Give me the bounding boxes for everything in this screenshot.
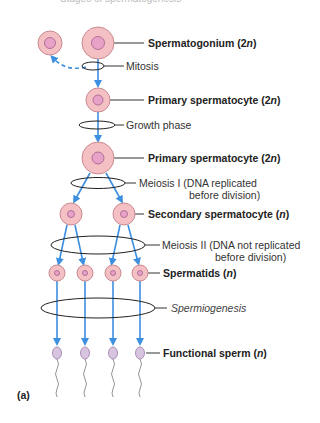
label-spermatogonium: Spermatogonium (2n) — [148, 37, 257, 49]
sperm-4 — [136, 347, 145, 397]
spermatid-cell-4 — [132, 265, 148, 281]
label-secondary-spermatocyte: Secondary spermatocyte (n) — [148, 208, 289, 220]
label-spermiogenesis: Spermiogenesis — [171, 302, 246, 314]
spermatid-cell-1 — [49, 265, 65, 281]
label-primary-spermatocyte-1: Primary spermatocyte (2n) — [148, 94, 280, 106]
spermatid-cell-2 — [77, 265, 93, 281]
primary-spermatocyte-cell-2 — [82, 142, 114, 174]
label-meiosis-2-line1: Meiosis II (DNA not replicated — [162, 239, 300, 251]
label-meiosis-1-line2: before division) — [189, 189, 260, 201]
spermatid-cell-3 — [105, 265, 121, 281]
label-meiosis-1-line1: Meiosis I (DNA replicated — [139, 177, 257, 189]
functional-sperm — [53, 347, 145, 397]
primary-spermatocyte-cell-1 — [86, 88, 110, 112]
sperm-1 — [53, 347, 62, 397]
spermatogonium-cell — [82, 27, 114, 59]
panel-label: (a) — [17, 389, 30, 401]
secondary-spermatocyte-cell-1 — [60, 203, 82, 225]
daughter-spermatogonium — [38, 31, 62, 55]
label-primary-spermatocyte-2: Primary spermatocyte (2n) — [148, 152, 280, 164]
sperm-3 — [109, 347, 118, 397]
label-functional-sperm: Functional sperm (n) — [163, 347, 267, 359]
label-growth-phase: Growth phase — [126, 119, 191, 131]
label-meiosis-2-line2: before division) — [215, 251, 286, 263]
secondary-spermatocyte-cell-2 — [113, 203, 135, 225]
sperm-2 — [81, 347, 90, 397]
label-mitosis: Mitosis — [126, 60, 159, 72]
label-spermatids: Spermatids (n) — [163, 267, 237, 279]
